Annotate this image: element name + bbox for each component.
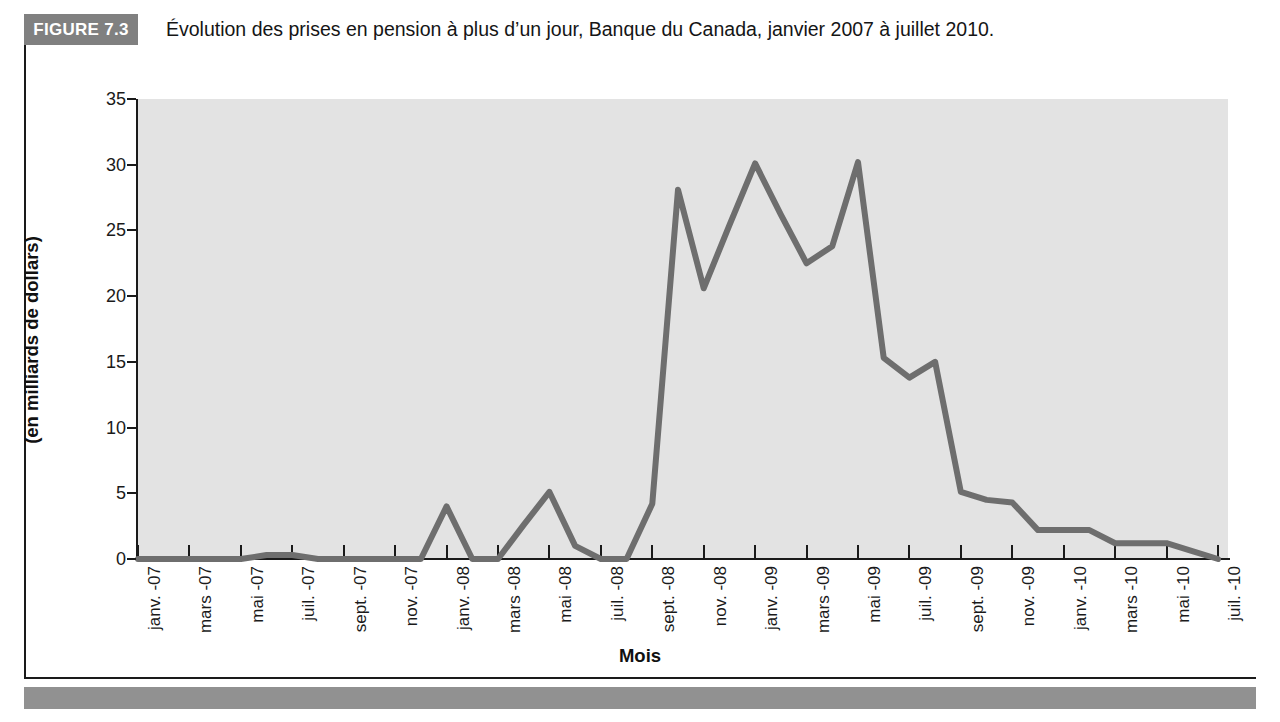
x-tick-mark (188, 545, 190, 558)
x-tick-mark (857, 545, 859, 558)
x-tick-label: nov. -07 (402, 566, 422, 626)
x-tick-label: janv. -10 (1071, 566, 1091, 630)
x-tick-mark (343, 545, 345, 558)
y-tick-mark (127, 492, 136, 494)
x-tick-label: mars -08 (505, 566, 525, 633)
x-tick-mark (806, 545, 808, 558)
x-tick-label: juil. -09 (916, 566, 936, 621)
x-tick-label: mai -07 (248, 566, 268, 623)
x-tick-mark (1166, 545, 1168, 558)
x-tick-mark (1063, 545, 1065, 558)
x-tick-label: sept. -08 (659, 566, 679, 632)
x-axis-title: Mois (0, 645, 1280, 667)
y-tick-mark (127, 98, 136, 100)
y-tick-mark (127, 558, 136, 560)
y-tick-label: 25 (88, 220, 126, 241)
x-tick-mark (960, 545, 962, 558)
x-tick-mark (600, 545, 602, 558)
x-tick-label: mars -07 (196, 566, 216, 633)
y-tick-label: 30 (88, 154, 126, 175)
x-tick-mark (908, 545, 910, 558)
x-tick-label: juil. -10 (1225, 566, 1245, 621)
x-tick-mark (703, 545, 705, 558)
x-tick-mark (394, 545, 396, 558)
x-tick-mark (1011, 545, 1013, 558)
y-tick-mark (127, 295, 136, 297)
y-axis-line (136, 99, 138, 560)
x-tick-label: juil. -07 (299, 566, 319, 621)
x-tick-label: janv. -09 (762, 566, 782, 630)
x-tick-mark (754, 545, 756, 558)
x-tick-label: mai -08 (556, 566, 576, 623)
x-tick-label: mai -10 (1174, 566, 1194, 623)
x-tick-mark (1217, 545, 1219, 558)
x-tick-label: janv. -07 (145, 566, 165, 630)
x-tick-mark (240, 545, 242, 558)
x-tick-label: janv. -08 (454, 566, 474, 630)
x-tick-mark (548, 545, 550, 558)
x-tick-label: sept. -07 (351, 566, 371, 632)
x-tick-mark (291, 545, 293, 558)
y-tick-mark (127, 361, 136, 363)
figure-page: FIGURE 7.3 Évolution des prises en pensi… (0, 0, 1280, 722)
plot-background (138, 99, 1228, 559)
x-tick-mark (651, 545, 653, 558)
y-tick-mark (127, 427, 136, 429)
y-axis-title: (en milliards de dollars) (21, 160, 43, 520)
x-axis-line (136, 558, 1230, 560)
y-tick-label: 5 (88, 483, 126, 504)
y-tick-label: 20 (88, 286, 126, 307)
x-tick-mark (497, 545, 499, 558)
x-tick-label: mars -09 (814, 566, 834, 633)
y-tick-label: 0 (88, 549, 126, 570)
y-tick-mark (127, 164, 136, 166)
x-tick-label: nov. -08 (711, 566, 731, 626)
x-tick-mark (446, 545, 448, 558)
x-tick-label: sept. -09 (968, 566, 988, 632)
x-tick-label: juil. -08 (608, 566, 628, 621)
x-tick-label: nov. -09 (1019, 566, 1039, 626)
y-axis-ticks: 05101520253035 (78, 0, 126, 722)
line-chart: 05101520253035 (en milliards de dollars)… (0, 0, 1280, 722)
y-tick-label: 15 (88, 351, 126, 372)
x-tick-label: mai -09 (865, 566, 885, 623)
x-tick-mark (1114, 545, 1116, 558)
y-tick-label: 10 (88, 417, 126, 438)
x-tick-mark (137, 545, 139, 558)
y-tick-mark (127, 229, 136, 231)
x-tick-label: mars -10 (1122, 566, 1142, 633)
y-tick-label: 35 (88, 89, 126, 110)
